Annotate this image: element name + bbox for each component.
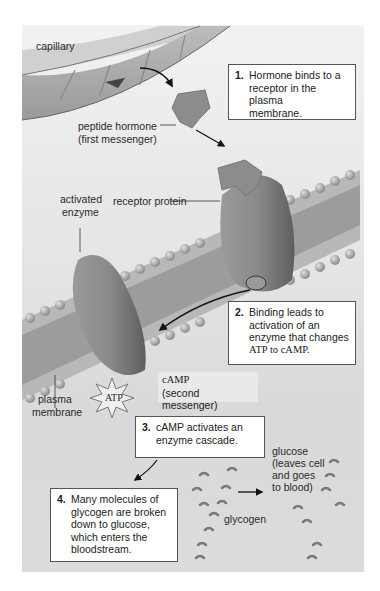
leaves-cell-label: (leaves cell — [272, 457, 325, 470]
to-blood-label: to blood) — [272, 481, 313, 494]
step-1-number: 1. — [235, 69, 244, 82]
peptide-hormone-label: peptide hormone — [78, 120, 157, 133]
glucose-label: glucose — [272, 445, 308, 458]
step-4-line: which enters the — [71, 531, 171, 544]
step-2-line: ATP to cAMP. — [249, 344, 349, 357]
glycogen-label: glycogen — [224, 513, 266, 526]
peptide-hormone-shape — [172, 90, 210, 128]
step-2-line: enzyme that changes — [249, 331, 349, 344]
arrow-cascade — [135, 460, 157, 480]
and-goes-label: and goes — [272, 469, 315, 482]
step-4-line: Many molecules of — [71, 493, 171, 506]
step-2-line: activation of an — [249, 319, 349, 332]
receptor-protein-label: receptor protein — [113, 195, 187, 208]
step-1-line: receptor in the plasma — [249, 82, 349, 107]
step-1-line: Hormone binds to a — [249, 69, 349, 82]
step-4-line: down to glucose, — [71, 518, 171, 531]
second-messenger-label: (second messenger) — [162, 387, 254, 412]
step-4-number: 4. — [57, 493, 66, 506]
camp-label: cAMP — [162, 374, 254, 387]
step-3-box: 3. cAMP activates an enzyme cascade. — [135, 416, 265, 458]
enzyme-label: enzyme — [62, 206, 99, 219]
activated-label: activated — [60, 193, 102, 206]
step-2-number: 2. — [235, 306, 244, 319]
step-4-box: 4. Many molecules of glycogen are broken… — [50, 488, 178, 562]
step-2-box: 2. Binding leads to activation of an enz… — [228, 301, 356, 365]
step-3-line: cAMP activates an — [156, 421, 258, 434]
step-2-line: Binding leads to — [249, 306, 349, 319]
capillary-label: capillary — [36, 40, 75, 53]
receptor-protein-shape — [220, 175, 294, 291]
step-4-line: bloodstream. — [71, 543, 171, 556]
membrane-label: membrane — [32, 406, 82, 419]
plasma-label: plasma — [38, 393, 72, 406]
first-messenger-label: (first messenger) — [78, 133, 157, 146]
step-1-box: 1. Hormone binds to a receptor in the pl… — [228, 64, 356, 120]
step-3-line: enzyme cascade. — [156, 434, 258, 447]
atp-label: ATP — [105, 392, 123, 405]
camp-label-box: cAMP (second messenger) — [158, 372, 258, 402]
step-1-line: membrane. — [249, 107, 349, 120]
step-4-line: glycogen are broken — [71, 506, 171, 519]
arrow-hormone-to-receptor — [196, 130, 224, 146]
step-3-number: 3. — [142, 421, 151, 434]
